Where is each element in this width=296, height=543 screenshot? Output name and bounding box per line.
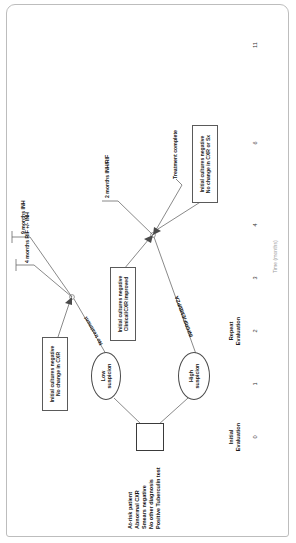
repeat-evaluation-label: Repeat Evaluation bbox=[228, 305, 242, 357]
high-outcome-text: Initial cultures negative Clinical/CXR i… bbox=[117, 276, 129, 333]
two-months-label: 2 months INH/RIF bbox=[104, 155, 110, 198]
high-suspicion-label: High suspicion bbox=[188, 364, 201, 389]
high-suspicion-node: High suspicion bbox=[178, 352, 210, 400]
axis-tick-0: 0 bbox=[252, 429, 258, 445]
nine-months-label: 9 months INH bbox=[20, 201, 26, 234]
start-node bbox=[136, 423, 164, 451]
axis-tick-3: 3 bbox=[252, 270, 258, 286]
repeat-outcome-box: Initial cultures negative No change in C… bbox=[192, 125, 218, 203]
low-suspicion-node: Low suspicion bbox=[91, 352, 121, 400]
axis-tick-2: 2 bbox=[252, 323, 258, 339]
low-outcome-box: Initial cultures negative No change in C… bbox=[42, 337, 68, 411]
treatment-complete-label: Treatment complete bbox=[172, 130, 178, 179]
axis-tick-11: 11 bbox=[252, 37, 258, 53]
axis-tick-6: 6 bbox=[252, 135, 258, 151]
axis-tick-4: 4 bbox=[252, 217, 258, 233]
repeat-outcome-text: Initial cultures negative No change in C… bbox=[199, 135, 211, 193]
low-outcome-text: Initial cultures negative No change in C… bbox=[49, 346, 61, 403]
initial-evaluation-label: Initial Evaluation bbox=[228, 411, 242, 463]
high-outcome-box: Initial cultures negative Clinical/CXR i… bbox=[110, 267, 136, 341]
figure-frame: At-risk patient Abnormal CXR Smears nega… bbox=[6, 4, 289, 537]
patient-criteria-label: At-risk patient Abnormal CXR Smears nega… bbox=[127, 453, 162, 529]
flowchart-stage: At-risk patient Abnormal CXR Smears nega… bbox=[6, 4, 289, 537]
axis-tick-1: 1 bbox=[252, 376, 258, 392]
axis-label: Time (months) bbox=[272, 240, 278, 273]
low-suspicion-label: Low suspicion bbox=[100, 364, 113, 389]
